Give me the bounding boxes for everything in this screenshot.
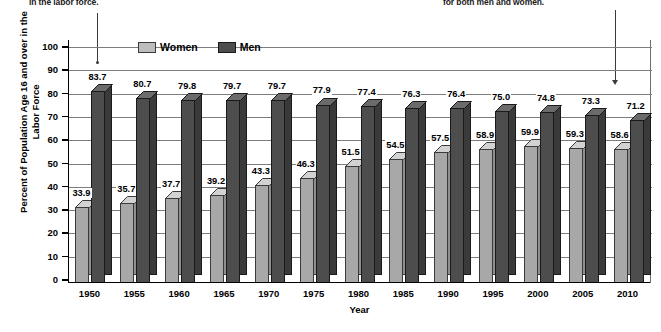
bar-top-face	[181, 93, 204, 102]
value-label-men-1980: 77.4	[357, 87, 377, 97]
value-label-women-1980: 51.5	[341, 147, 361, 157]
bar-side-face	[464, 101, 471, 275]
bar-women-2005	[569, 141, 583, 282]
bar-top-face	[316, 98, 339, 107]
value-label-women-1965: 39.2	[206, 176, 226, 186]
value-label-women-2005: 59.3	[565, 129, 585, 139]
bar-women-2010	[614, 142, 628, 282]
bar-top-face	[91, 84, 114, 93]
bar-front-face	[271, 100, 285, 282]
x-tick-label-2005: 2005	[563, 288, 603, 299]
bar-women-1950	[75, 200, 89, 282]
y-tick-label: 70	[34, 111, 58, 122]
bar-side-face	[644, 113, 651, 275]
y-tick-label: 10	[34, 251, 58, 262]
bar-side-face	[509, 104, 516, 275]
bar-side-face	[105, 84, 112, 275]
bar-men-2005	[585, 108, 599, 282]
y-tick-label: 80	[34, 88, 58, 99]
bar-front-face	[300, 178, 314, 282]
bar-men-1985	[405, 101, 419, 282]
bar-front-face	[120, 203, 134, 282]
bar-front-face	[540, 112, 554, 282]
y-tick-mark	[62, 163, 68, 165]
y-tick-label: 100	[34, 41, 58, 52]
y-tick-mark	[62, 279, 68, 281]
bar-side-face	[195, 93, 202, 275]
y-tick-mark	[62, 93, 68, 95]
y-tick-label: 0	[34, 274, 58, 285]
y-tick-label: 90	[34, 64, 58, 75]
bar-front-face	[345, 166, 359, 282]
bar-men-1965	[226, 93, 240, 282]
bar-men-1995	[495, 104, 509, 282]
value-label-women-2000: 59.9	[520, 127, 540, 137]
y-tick-mark	[62, 69, 68, 71]
y-tick-mark	[62, 232, 68, 234]
bar-top-face	[540, 105, 563, 114]
bar-front-face	[75, 207, 89, 282]
value-label-men-1965: 79.7	[222, 81, 242, 91]
bar-top-face	[630, 113, 653, 122]
bar-men-1980	[361, 99, 375, 282]
bar-women-1985	[389, 152, 403, 282]
value-label-women-1985: 54.5	[385, 140, 405, 150]
bar-men-1990	[450, 101, 464, 282]
bar-front-face	[181, 100, 195, 282]
value-label-women-1950: 33.9	[71, 188, 91, 198]
value-label-women-1960: 37.7	[161, 179, 181, 189]
plot-inner: 33.983.735.780.737.779.839.279.743.379.7…	[68, 40, 651, 283]
bar-women-1975	[300, 171, 314, 282]
bar-top-face	[361, 99, 384, 108]
bar-side-face	[240, 93, 247, 275]
value-label-men-2010: 71.2	[626, 101, 646, 111]
bar-side-face	[599, 108, 606, 275]
bar-women-1980	[345, 159, 359, 282]
bar-men-1970	[271, 93, 285, 282]
bar-men-1960	[181, 93, 195, 282]
legend-item-women: Women	[138, 41, 198, 53]
y-tick-mark	[62, 139, 68, 141]
value-label-women-1970: 43.3	[251, 166, 271, 176]
bar-front-face	[255, 185, 269, 282]
bar-men-1975	[316, 98, 330, 283]
value-label-women-1995: 58.9	[475, 130, 495, 140]
legend-item-men: Men	[218, 41, 261, 53]
labor-force-participation-chart: in the labor force. for both men and wom…	[0, 0, 661, 332]
value-label-men-1985: 76.3	[401, 89, 421, 99]
bar-front-face	[495, 111, 509, 282]
bar-front-face	[434, 152, 448, 282]
value-label-men-1950: 83.7	[87, 72, 107, 82]
y-tick-label: 30	[34, 204, 58, 215]
value-label-men-1995: 75.0	[491, 92, 511, 102]
bar-front-face	[136, 98, 150, 282]
x-tick-label-1975: 1975	[294, 288, 334, 299]
bar-side-face	[554, 105, 561, 275]
bar-front-face	[361, 106, 375, 282]
bar-side-face	[419, 101, 426, 275]
x-tick-label-1980: 1980	[339, 288, 379, 299]
legend-swatch-men-icon	[218, 42, 236, 53]
x-tick-label-1970: 1970	[249, 288, 289, 299]
bar-top-face	[495, 104, 518, 113]
bar-top-face	[136, 91, 159, 100]
x-tick-label-1950: 1950	[69, 288, 109, 299]
bar-front-face	[226, 100, 240, 282]
bar-women-1955	[120, 196, 134, 282]
bar-women-1960	[165, 191, 179, 282]
bar-men-1950	[91, 84, 105, 282]
value-label-men-1975: 77.9	[312, 85, 332, 95]
bar-women-1990	[434, 145, 448, 282]
value-label-men-1970: 79.7	[267, 81, 287, 91]
value-label-women-2010: 58.6	[610, 130, 630, 140]
bar-front-face	[569, 148, 583, 282]
y-tick-mark	[62, 46, 68, 48]
bar-front-face	[450, 108, 464, 282]
bar-top-face	[271, 93, 294, 102]
y-tick-mark	[62, 186, 68, 188]
value-label-men-1990: 76.4	[446, 89, 466, 99]
annotation-note-right: for both men and women.	[443, 0, 544, 7]
value-label-women-1955: 35.7	[116, 184, 136, 194]
bar-top-face	[450, 101, 473, 110]
bar-front-face	[316, 105, 330, 283]
